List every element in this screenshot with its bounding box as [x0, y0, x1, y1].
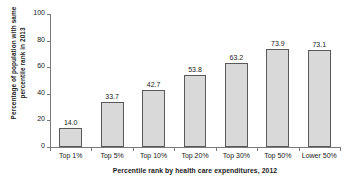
bar-rect[interactable]	[308, 50, 331, 147]
bar-group[interactable]: 53.8	[184, 14, 207, 147]
y-axis-tick-label: 0	[41, 142, 45, 149]
bar-value-label: 42.7	[147, 81, 161, 88]
plot-area: 020406080100 14.033.742.753.863.273.973.…	[50, 14, 340, 147]
x-axis-line	[50, 147, 341, 148]
x-axis-tick-mark	[91, 147, 92, 151]
x-axis-tick-mark	[216, 147, 217, 151]
bar-value-label: 53.8	[188, 66, 202, 73]
x-axis-tick-label: Top 5%	[100, 152, 123, 159]
x-axis-tick-label: Top 1%	[59, 152, 82, 159]
y-axis-title-line-2: percentile rank in 2013	[18, 27, 27, 98]
y-axis-tick-label: 20	[37, 115, 45, 122]
bar-value-label: 33.7	[105, 93, 119, 100]
x-axis-tick-mark	[50, 147, 51, 151]
bar-rect[interactable]	[184, 75, 207, 147]
x-axis-tick-label: Top 30%	[223, 152, 250, 159]
x-axis-tick-label: Top 10%	[140, 152, 167, 159]
y-axis-tick-label: 100	[33, 9, 45, 16]
bar-chart-figure: Percentage of population with same perce…	[0, 0, 344, 185]
bar-group[interactable]: 73.1	[308, 14, 331, 147]
bar-group[interactable]: 14.0	[59, 14, 82, 147]
bar-rect[interactable]	[59, 128, 82, 147]
x-axis-tick-labels: Top 1%Top 5%Top 10%Top 20%Top 30%Top 50%…	[50, 152, 340, 164]
bar-rect[interactable]	[266, 49, 289, 147]
x-axis-tick-label: Lower 50%	[302, 152, 337, 159]
x-axis-tick-label: Top 20%	[181, 152, 208, 159]
bar-value-label: 63.2	[230, 54, 244, 61]
bar-value-label: 73.1	[312, 41, 326, 48]
bar-group[interactable]: 33.7	[101, 14, 124, 147]
bar-group[interactable]: 42.7	[142, 14, 165, 147]
y-axis-tick-label: 40	[37, 89, 45, 96]
bar-value-label: 14.0	[64, 119, 78, 126]
bar-group[interactable]: 63.2	[225, 14, 248, 147]
x-axis-tick-mark	[133, 147, 134, 151]
x-axis-tick-mark	[257, 147, 258, 151]
bar-value-label: 73.9	[271, 40, 285, 47]
bars-layer: 14.033.742.753.863.273.973.1	[50, 14, 340, 147]
bar-rect[interactable]	[142, 90, 165, 147]
y-axis-title: Percentage of population with same perce…	[5, 0, 31, 133]
bar-rect[interactable]	[225, 63, 248, 147]
y-axis-title-line-1: Percentage of population with same	[9, 7, 18, 120]
x-axis-title: Percentile rank by health care expenditu…	[50, 167, 340, 174]
x-axis-tick-mark	[174, 147, 175, 151]
x-axis-tick-mark	[299, 147, 300, 151]
x-axis-tick-label: Top 50%	[264, 152, 291, 159]
y-axis-tick-label: 60	[37, 62, 45, 69]
y-axis-tick-label: 80	[37, 36, 45, 43]
bar-group[interactable]: 73.9	[266, 14, 289, 147]
x-axis-tick-mark	[340, 147, 341, 151]
bar-rect[interactable]	[101, 102, 124, 147]
